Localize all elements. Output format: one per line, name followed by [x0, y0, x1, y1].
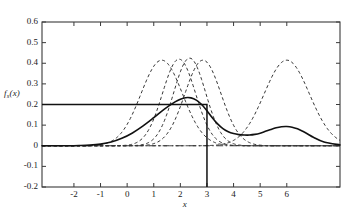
y-tick-label: 0.6 [6, 16, 38, 26]
y-tick-label: 0.2 [6, 99, 38, 109]
x-tick-label: 6 [275, 189, 299, 199]
x-tick-label: 2 [168, 189, 192, 199]
x-tick-label: 5 [248, 189, 272, 199]
curve-kernel-1 [42, 60, 340, 146]
y-tick-label: 0.3 [6, 78, 38, 88]
x-tick-label: 0 [115, 189, 139, 199]
x-tick-label: 1 [142, 189, 166, 199]
x-axis-label: x [183, 199, 187, 209]
x-tick-label: -1 [89, 189, 113, 199]
y-tick-label: -0.1 [6, 160, 38, 170]
y-tick-label: 0.1 [6, 119, 38, 129]
curve-kernel-2 [42, 59, 340, 146]
y-tick-label: -0.2 [6, 181, 38, 191]
x-tick-label: -2 [62, 189, 86, 199]
data-curves [42, 58, 340, 187]
x-tick-label: 4 [222, 189, 246, 199]
y-tick-label: 0 [6, 140, 38, 150]
x-tick-label: 3 [195, 189, 219, 199]
figure-chart-density-estimate: fs(x) -2-10123456 -0.2-0.100.10.20.30.40… [0, 0, 360, 217]
curve-kernel-5 [42, 60, 340, 146]
plot-area [0, 0, 360, 217]
curve-kernel-4 [42, 60, 340, 146]
y-tick-label: 0.4 [6, 57, 38, 67]
curve-kernel-3 [42, 58, 340, 146]
y-tick-label: 0.5 [6, 37, 38, 47]
